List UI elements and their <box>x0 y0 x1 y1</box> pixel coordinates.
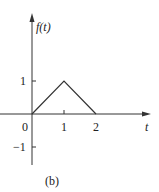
figure-caption: (b) <box>45 174 59 188</box>
origin-label: 0 <box>22 120 28 134</box>
series-f-of-t <box>32 81 96 114</box>
y-tick-label-neg1: −1 <box>13 140 26 154</box>
x-axis-arrow-icon <box>142 112 151 117</box>
y-axis-label: f(t) <box>36 20 51 34</box>
chart-canvas: f(t) t 0 1 2 1 −1 (b) <box>0 0 159 192</box>
y-tick-label-1: 1 <box>20 74 26 88</box>
x-tick-label-2: 2 <box>93 120 99 134</box>
x-tick-label-1: 1 <box>61 120 67 134</box>
x-axis-label: t <box>145 120 149 134</box>
y-axis-arrow-icon <box>30 13 35 22</box>
